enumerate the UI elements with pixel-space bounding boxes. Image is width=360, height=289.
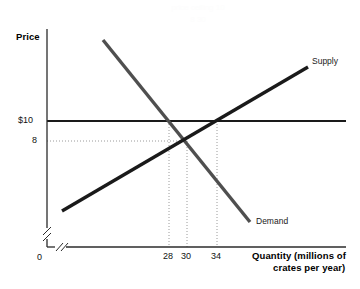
y-axis-title: Price	[16, 31, 40, 42]
demand-curve-label: Demand	[256, 216, 288, 226]
x-tick-label-34: 34	[211, 251, 221, 261]
demand-curve	[103, 40, 250, 222]
x-tick-label-0: 0	[37, 252, 42, 262]
x-axis-title-line1: Quantity (millions of	[252, 250, 346, 261]
x-tick-label-28: 28	[163, 251, 173, 261]
supply-demand-plot	[0, 0, 360, 289]
chart-figure: price ceiling 10 8 30 Price Quantity (mi…	[0, 0, 360, 289]
x-axis-title-line2: crates per year)	[273, 262, 345, 273]
x-tick-label-30: 30	[181, 251, 191, 261]
supply-curve	[62, 67, 308, 211]
y-tick-label-10: $10	[18, 115, 33, 125]
y-tick-label-8: 8	[32, 135, 37, 145]
supply-curve-label: Supply	[312, 56, 338, 66]
